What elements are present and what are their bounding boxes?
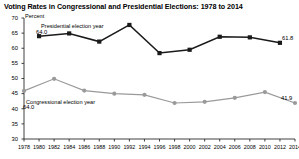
x-tick-2004: 2004 [214, 144, 226, 150]
presidential-series-label: Presidential election year [41, 23, 104, 29]
x-tick-1998: 1998 [169, 144, 181, 150]
data-point-congressional-1986 [82, 89, 86, 93]
data-point-presidential-2004 [218, 35, 222, 39]
data-point-presidential-2008 [248, 35, 252, 39]
x-tick-1992: 1992 [123, 144, 135, 150]
data-point-presidential-2012 [278, 41, 282, 45]
x-tick-1990: 1990 [108, 144, 120, 150]
data-point-congressional-1978 [22, 89, 26, 93]
data-point-congressional-1990 [112, 92, 116, 96]
data-point-presidential-1980 [37, 34, 41, 38]
y-tick-60: 60 [2, 45, 18, 51]
data-point-presidential-2000 [188, 48, 192, 52]
data-point-congressional-1982 [52, 77, 56, 81]
data-point-congressional-2014 [293, 101, 297, 105]
chart-figure: Voting Rates in Congressional and Presid… [0, 0, 299, 159]
x-tick-2008: 2008 [244, 144, 256, 150]
x-tick-1982: 1982 [48, 144, 60, 150]
y-tick-70: 70 [2, 15, 18, 21]
x-tick-2002: 2002 [199, 144, 211, 150]
y-tick-50: 50 [2, 75, 18, 81]
x-tick-1994: 1994 [138, 144, 150, 150]
data-point-congressional-2010 [263, 90, 267, 94]
x-tick-1980: 1980 [33, 144, 45, 150]
presidential-last-value-label: 61.8 [282, 35, 293, 41]
x-tick-1988: 1988 [93, 144, 105, 150]
congressional-series-label: Congressional election year [26, 99, 95, 105]
y-tick-30: 30 [2, 136, 18, 142]
data-point-presidential-1992 [127, 23, 131, 27]
data-point-congressional-2006 [233, 96, 237, 100]
data-point-congressional-1994 [142, 93, 146, 97]
congressional-last-value-label: 41.9 [281, 95, 292, 101]
x-tick-2010: 2010 [259, 144, 271, 150]
x-tick-2006: 2006 [229, 144, 241, 150]
x-tick-1978: 1978 [18, 144, 30, 150]
series-line-presidential [39, 25, 280, 53]
x-tick-2000: 2000 [184, 144, 196, 150]
y-tick-35: 35 [2, 121, 18, 127]
data-point-presidential-1996 [157, 51, 161, 55]
y-tick-65: 65 [2, 30, 18, 36]
x-tick-1986: 1986 [78, 144, 90, 150]
data-point-presidential-1984 [67, 31, 71, 35]
x-tick-2014: 2014 [289, 144, 299, 150]
x-tick-1996: 1996 [154, 144, 166, 150]
x-tick-2012: 2012 [274, 144, 286, 150]
data-point-presidential-1988 [97, 39, 101, 43]
y-tick-55: 55 [2, 60, 18, 66]
data-point-congressional-1998 [172, 101, 176, 105]
y-tick-45: 45 [2, 90, 18, 96]
y-tick-40: 40 [2, 106, 18, 112]
congressional-first-value-label: 64.0 [23, 104, 34, 110]
x-tick-1984: 1984 [63, 144, 75, 150]
presidential-first-value-label: 64.0 [36, 29, 47, 35]
data-point-congressional-2002 [203, 100, 207, 104]
